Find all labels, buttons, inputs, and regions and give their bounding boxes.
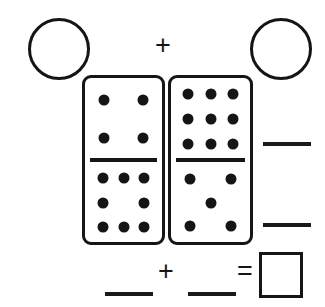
left-domino-total-circle[interactable]	[28, 18, 90, 80]
pip	[139, 173, 150, 184]
pip	[99, 95, 110, 106]
bottom-plus-operator: +	[158, 258, 174, 285]
top-plus-operator: +	[155, 32, 171, 59]
pip	[227, 138, 238, 149]
right-domino-total-circle[interactable]	[250, 18, 312, 80]
pip	[118, 222, 129, 233]
right-upper-blank-line[interactable]	[263, 142, 311, 146]
right-lower-blank-line[interactable]	[263, 223, 311, 227]
pip	[205, 89, 216, 100]
pip	[118, 173, 129, 184]
left-domino-bottom-half	[85, 160, 162, 242]
equals-operator: =	[237, 258, 253, 285]
pip	[205, 138, 216, 149]
right-domino-top-half	[171, 78, 250, 160]
pip	[183, 89, 194, 100]
pip	[184, 173, 195, 184]
pip	[99, 132, 110, 143]
pip	[137, 95, 148, 106]
pip	[205, 114, 216, 125]
right-domino[interactable]	[168, 75, 253, 245]
pip	[137, 132, 148, 143]
pip	[227, 89, 238, 100]
pip	[97, 173, 108, 184]
left-domino-top-half	[85, 78, 162, 160]
pip	[139, 222, 150, 233]
right-domino-bottom-half	[171, 160, 250, 242]
pip	[184, 221, 195, 232]
pip	[227, 114, 238, 125]
right-domino-divider	[176, 158, 245, 162]
domino-addition-worksheet: +	[0, 0, 325, 307]
left-domino-divider	[90, 158, 157, 162]
bottom-right-blank-line[interactable]	[188, 292, 236, 296]
pip	[139, 197, 150, 208]
pip	[205, 197, 216, 208]
pip	[226, 173, 237, 184]
pip	[226, 221, 237, 232]
pip	[97, 197, 108, 208]
pip	[97, 222, 108, 233]
pip	[183, 114, 194, 125]
bottom-left-blank-line[interactable]	[105, 292, 153, 296]
pip	[183, 138, 194, 149]
final-answer-box[interactable]	[259, 252, 303, 298]
left-domino[interactable]	[82, 75, 165, 245]
